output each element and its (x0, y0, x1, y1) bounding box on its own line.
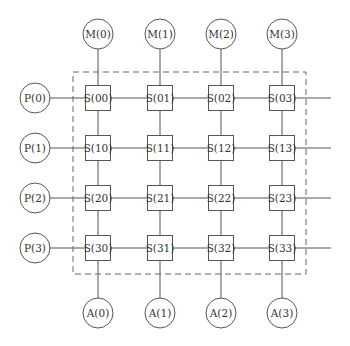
crossbar-diagram: M(0) M(1) M(2) M(3) P(0) P(1) P(2) P(3) … (0, 0, 350, 346)
switch-label: S(31) (146, 242, 175, 254)
switch-label: S(13) (268, 142, 297, 154)
output-node-label: A(3) (271, 307, 293, 319)
memory-node-label: M(2) (208, 28, 234, 40)
switch-label: S(02) (207, 92, 236, 104)
connection-lines (0, 0, 350, 346)
switch-label: S(12) (207, 142, 236, 154)
switch-label: S(32) (207, 242, 236, 254)
switch-label: S(03) (268, 92, 297, 104)
memory-node-label: M(3) (269, 28, 295, 40)
switch-label: S(22) (207, 192, 236, 204)
output-node-label: A(0) (87, 307, 109, 319)
switch-label: S(21) (146, 192, 175, 204)
switch-label: S(00) (84, 92, 113, 104)
processor-node-label: P(0) (24, 92, 46, 104)
switch-label: S(33) (268, 242, 297, 254)
memory-node-label: M(0) (85, 28, 111, 40)
memory-node-label: M(1) (147, 28, 173, 40)
processor-node-label: P(2) (24, 192, 46, 204)
switch-label: S(10) (84, 142, 113, 154)
processor-node-label: P(1) (24, 142, 46, 154)
output-node-label: A(1) (149, 307, 171, 319)
processor-node-label: P(3) (24, 242, 46, 254)
switch-label: S(23) (268, 192, 297, 204)
switch-label: S(20) (84, 192, 113, 204)
switch-label: S(01) (146, 92, 175, 104)
output-node-label: A(2) (210, 307, 232, 319)
switch-label: S(11) (146, 142, 175, 154)
switch-label: S(30) (84, 242, 113, 254)
